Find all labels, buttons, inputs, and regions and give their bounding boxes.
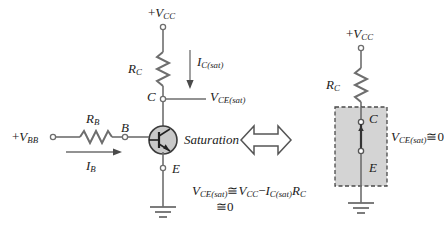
label-node-c-right: C bbox=[369, 112, 378, 125]
node-e-terminal-left bbox=[160, 165, 165, 170]
label-rb: RB bbox=[86, 112, 99, 125]
label-vcc-right: +VCC bbox=[346, 27, 373, 40]
label-saturation: Saturation bbox=[184, 133, 239, 146]
current-arrow-ic-head bbox=[186, 80, 193, 89]
resistor-rb bbox=[80, 131, 112, 143]
label-rc-left: RC bbox=[128, 62, 142, 75]
label-vce-sat-left: VCE(sat) bbox=[210, 90, 245, 103]
node-b-terminal bbox=[122, 134, 127, 139]
label-vcc-left: +VCC bbox=[148, 6, 175, 19]
label-node-b: B bbox=[121, 121, 129, 134]
current-arrow-ib-head bbox=[113, 149, 122, 156]
label-vbb: +VBB bbox=[12, 130, 38, 143]
double-headed-arrow bbox=[241, 126, 291, 154]
equation-line-1: VCE(sat)≅VCC−IC(sat)RC bbox=[192, 184, 306, 197]
label-ib: IB bbox=[86, 159, 96, 172]
label-vce-sat-right: VCE(sat)≅0 bbox=[391, 130, 444, 143]
equation-line-2: ≅0 bbox=[216, 200, 234, 213]
label-node-e-left: E bbox=[172, 162, 180, 175]
label-node-c-left: C bbox=[147, 90, 156, 103]
vcc-terminal-left bbox=[160, 24, 165, 29]
vcc-terminal-right bbox=[358, 45, 363, 50]
node-c-terminal-right bbox=[358, 119, 363, 124]
node-e-terminal-right bbox=[358, 148, 363, 153]
resistor-rc-left bbox=[157, 52, 169, 86]
vbb-terminal bbox=[50, 134, 55, 139]
node-c-terminal-left bbox=[160, 96, 165, 101]
label-rc-right: RC bbox=[326, 78, 340, 91]
label-ic-sat: IC(sat) bbox=[197, 55, 223, 68]
label-node-e-right: E bbox=[369, 161, 377, 174]
resistor-rc-right bbox=[355, 68, 367, 102]
